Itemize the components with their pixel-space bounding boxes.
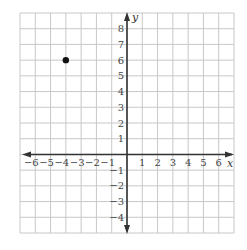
x-tick-label: −5	[39, 157, 54, 168]
x-tick-label: 1	[139, 157, 145, 168]
y-tick-label: 2	[118, 118, 124, 129]
x-tick-label: 2	[154, 157, 160, 168]
y-tick-label: −4	[109, 212, 124, 223]
x-tick-label: 5	[200, 157, 206, 168]
coordinate-plane: x y −6−5−4−3−2−1123456−4−3−2−112345678	[0, 0, 247, 250]
y-tick-label: 7	[118, 39, 124, 50]
y-axis-label: y	[131, 11, 139, 24]
y-tick-label: 8	[118, 23, 124, 34]
y-tick-label: −2	[109, 180, 124, 191]
x-tick-label: 4	[185, 157, 191, 168]
y-tick-label: 4	[118, 86, 124, 97]
y-tick-label: 6	[118, 55, 124, 66]
x-axis-label: x	[227, 157, 234, 170]
y-tick-label: −3	[109, 196, 124, 207]
x-tick-label: 6	[216, 157, 222, 168]
y-tick-label: 5	[118, 70, 124, 81]
data-points	[63, 57, 69, 63]
data-point	[63, 57, 69, 63]
y-tick-label: 3	[118, 102, 124, 113]
x-tick-label: −6	[24, 157, 39, 168]
y-tick-label: 1	[118, 133, 124, 144]
y-tick-label: −1	[109, 165, 124, 176]
x-tick-label: 3	[170, 157, 176, 168]
x-tick-label: −3	[70, 157, 85, 168]
x-tick-label: −2	[85, 157, 100, 168]
x-tick-label: −4	[54, 157, 69, 168]
